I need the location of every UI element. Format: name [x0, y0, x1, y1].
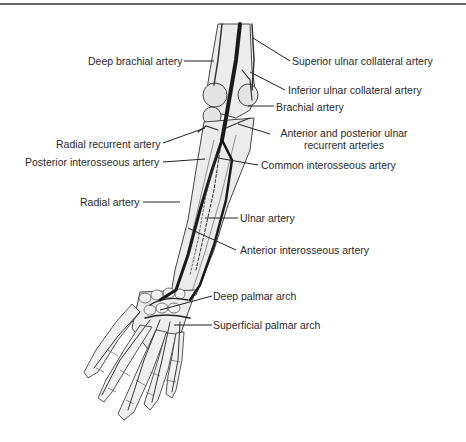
- label-ulnar-recurrent-line1: Anterior and posterior ulnar: [274, 127, 414, 139]
- label-anterior-interosseous-artery: Anterior interosseous artery: [240, 244, 369, 256]
- label-superficial-palmar-arch: Superficial palmar arch: [213, 319, 320, 331]
- leader-radial-recurrent: [163, 128, 205, 143]
- label-common-interosseous-artery: Common interosseous artery: [261, 159, 396, 171]
- label-ulnar-artery: Ulnar artery: [240, 212, 295, 224]
- label-ulnar-recurrent-arteries: Anterior and posterior ulnar recurrent a…: [274, 127, 414, 151]
- label-brachial-artery: Brachial artery: [276, 101, 344, 113]
- label-deep-brachial-artery: Deep brachial artery: [88, 55, 183, 67]
- label-ulnar-recurrent-line2: recurrent arteries: [274, 139, 414, 151]
- leader-superior-ulnar-collateral: [253, 38, 290, 61]
- label-radial-artery: Radial artery: [80, 196, 140, 208]
- label-deep-palmar-arch: Deep palmar arch: [213, 290, 296, 302]
- label-radial-recurrent-artery: Radial recurrent artery: [56, 138, 160, 150]
- label-inferior-ulnar-collateral-artery: Inferior ulnar collateral artery: [288, 84, 422, 96]
- label-superior-ulnar-collateral-artery: Superior ulnar collateral artery: [292, 55, 433, 67]
- label-posterior-interosseous-artery: Posterior interosseous artery: [25, 156, 159, 168]
